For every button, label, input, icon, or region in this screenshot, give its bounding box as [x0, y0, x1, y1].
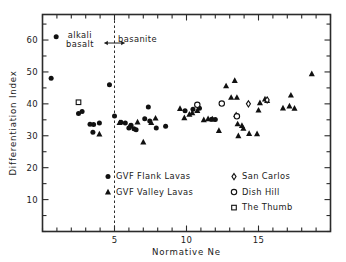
data-point — [97, 121, 102, 126]
data-point — [163, 124, 168, 129]
data-point — [291, 105, 297, 111]
data-point — [96, 131, 102, 137]
axis-tick-labels: 51015102030405060 — [27, 35, 265, 245]
data-point — [234, 114, 239, 119]
plot-legend: GVF Flank LavasGVF Valley LavasSan Carlo… — [105, 171, 293, 212]
data-point — [280, 105, 286, 111]
legend-label: Dish Hill — [242, 187, 280, 197]
legend-marker-icon — [105, 189, 111, 195]
data-point — [201, 117, 207, 123]
annotation-alkali-basalt: alkali — [68, 30, 92, 40]
legend-marker-icon — [231, 189, 236, 194]
annotation-alkali-basalt-line2: basalt — [66, 39, 94, 49]
data-point — [223, 83, 229, 89]
x-axis-title: Normative Ne — [152, 247, 221, 257]
data-point — [107, 82, 112, 87]
data-points — [49, 34, 315, 144]
legend-marker-icon — [106, 174, 111, 179]
legend-entry: Dish Hill — [231, 187, 279, 197]
y-tick-label: 60 — [27, 35, 38, 45]
data-point — [49, 76, 54, 81]
y-tick-label: 20 — [27, 163, 38, 173]
legend-label: GVF Valley Lavas — [116, 187, 193, 197]
data-point — [134, 127, 139, 132]
legend-label: San Carlos — [242, 171, 290, 181]
data-point — [286, 103, 292, 109]
data-point — [246, 130, 252, 136]
data-point — [228, 94, 234, 100]
data-point — [142, 116, 147, 121]
y-tick-label: 40 — [27, 99, 38, 109]
x-tick-label: 10 — [181, 235, 192, 245]
data-point — [219, 101, 224, 106]
data-point — [216, 127, 222, 133]
legend-entry: San Carlos — [232, 171, 290, 181]
data-point — [288, 92, 294, 98]
x-tick-label: 15 — [253, 235, 264, 245]
y-axis-title: Differentiation Index — [8, 70, 18, 175]
data-point — [140, 139, 146, 145]
data-point — [54, 34, 59, 39]
data-point — [90, 130, 95, 135]
series-gvf-flank-lavas — [49, 34, 218, 134]
data-point — [91, 122, 96, 127]
data-point — [112, 113, 117, 118]
data-point — [246, 101, 250, 107]
legend-entry: The Thumb — [232, 202, 293, 212]
y-tick-label: 50 — [27, 67, 38, 77]
data-point — [135, 119, 141, 125]
data-point — [183, 108, 188, 113]
data-point — [154, 126, 159, 131]
data-point — [232, 77, 238, 83]
scatter-plot-figure: 51015102030405060 alkalibasaltbasanite G… — [0, 0, 346, 262]
series-the-thumb — [76, 100, 81, 105]
plot-canvas: 51015102030405060 alkalibasaltbasanite G… — [0, 0, 346, 262]
data-point — [153, 115, 159, 121]
series-san-carlos — [246, 97, 269, 107]
data-point — [309, 71, 315, 77]
data-point — [181, 115, 187, 121]
data-point — [235, 132, 241, 138]
data-point — [177, 105, 183, 111]
legend-label: GVF Flank Lavas — [116, 171, 190, 181]
x-tick-label: 5 — [112, 235, 118, 245]
legend-marker-icon — [232, 205, 237, 210]
legend-entry: GVF Flank Lavas — [106, 171, 191, 181]
data-point — [255, 107, 261, 113]
plot-annotations: alkalibasaltbasanite — [66, 30, 157, 50]
legend-marker-icon — [232, 174, 236, 180]
data-point — [257, 100, 263, 106]
data-point — [76, 100, 81, 105]
y-tick-label: 10 — [27, 195, 38, 205]
data-point — [235, 121, 241, 127]
data-point — [123, 121, 128, 126]
legend-label: The Thumb — [241, 202, 293, 212]
data-point — [80, 109, 85, 114]
data-point — [195, 102, 200, 107]
data-point — [234, 94, 240, 100]
data-point — [146, 105, 151, 110]
legend-entry: GVF Valley Lavas — [105, 187, 193, 197]
data-point — [254, 131, 260, 137]
y-tick-label: 30 — [27, 131, 38, 141]
series-gvf-valley-lavas — [96, 71, 314, 145]
